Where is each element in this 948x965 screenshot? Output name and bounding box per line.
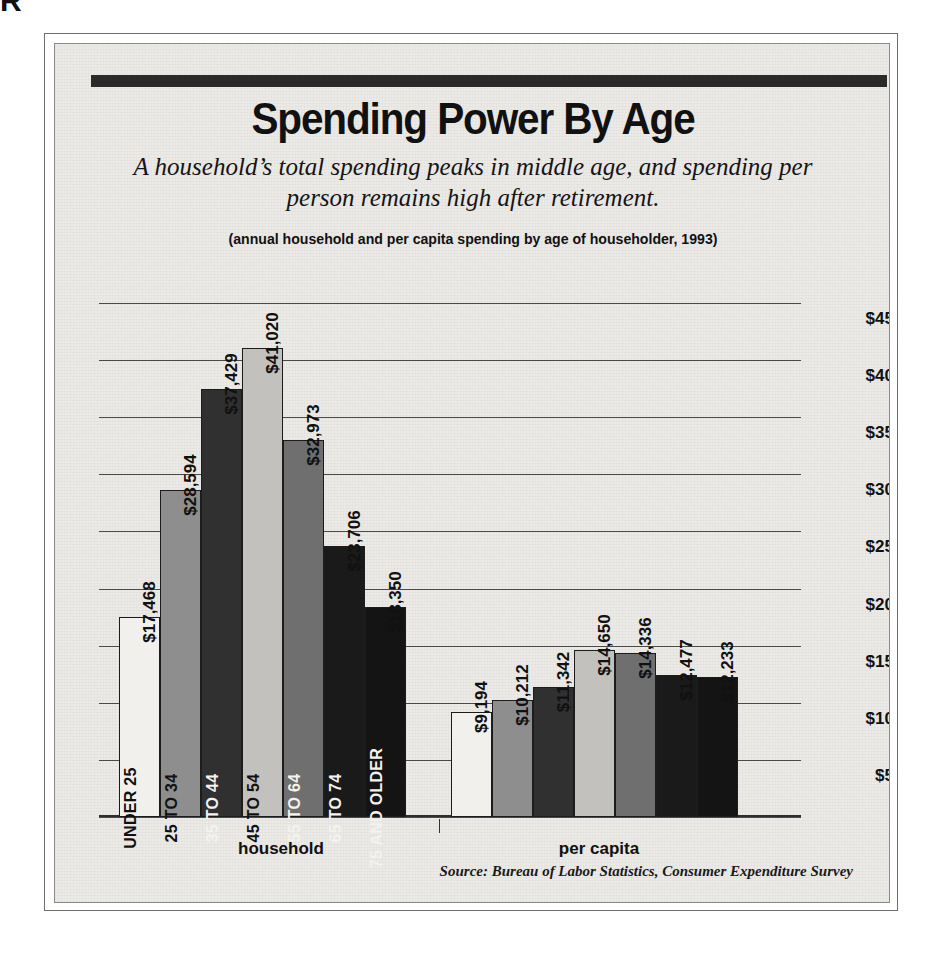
bar-value-label: $11,342	[554, 652, 574, 713]
bar: $41,02045 TO 54	[242, 348, 283, 817]
y-axis-tick-label: $30,000	[811, 480, 890, 500]
bar-value-label: $18,350	[386, 572, 406, 633]
bar-value-label: $14,336	[636, 618, 656, 679]
bar: $14,650	[574, 650, 615, 817]
bar-value-label: $10,212	[513, 665, 533, 726]
y-axis-tick-label: $20,000	[811, 595, 890, 615]
bar-value-label: $23,706	[345, 511, 365, 572]
bar-value-label: $41,020	[263, 313, 283, 374]
y-axis-tick-label: $15,000	[811, 652, 890, 672]
y-axis-tick-label: $35,000	[811, 423, 890, 443]
title-rule	[91, 75, 887, 87]
source-note: Source: Bureau of Labor Statistics, Cons…	[440, 863, 853, 880]
bar: $32,97355 TO 64	[283, 440, 324, 817]
bar: $9,194	[451, 712, 492, 817]
bar-value-label: $37,429	[222, 354, 242, 415]
bar: $14,336	[615, 653, 656, 817]
bar: $37,42935 TO 44	[201, 389, 242, 817]
y-axis-tick-label: $45,000	[811, 309, 890, 329]
chart-note: (annual household and per capita spendin…	[118, 230, 829, 247]
bar: $28,59425 TO 34	[160, 490, 201, 817]
bar-value-label: $28,594	[181, 455, 201, 516]
bar-value-label: $9,194	[472, 681, 492, 733]
gridline	[99, 303, 801, 304]
y-axis-tick-label: $40,000	[811, 366, 890, 386]
group-label-per-capita: per capita	[509, 839, 689, 859]
corner-letter-fragment: R	[0, 0, 21, 16]
bar: $23,70665 TO 74	[324, 546, 365, 817]
bar-value-label: $14,650	[595, 614, 615, 675]
bar-category-label: 45 TO 54	[245, 774, 263, 843]
bar-category-label: UNDER 25	[122, 767, 140, 849]
bar: $18,35075 AND OLDER	[365, 607, 406, 817]
bar: $11,342	[533, 687, 574, 817]
bar-category-label: 35 TO 44	[204, 774, 222, 843]
chart-panel: Spending Power By Age A household’s tota…	[54, 43, 890, 903]
y-axis-tick-label: $0	[811, 823, 890, 843]
bar-value-label: $12,233	[718, 642, 738, 703]
bar-value-label: $17,468	[140, 582, 160, 643]
bar-category-label: 25 TO 34	[163, 774, 181, 843]
page-title: Spending Power By Age	[88, 94, 857, 144]
bar-value-label: $32,973	[304, 405, 324, 466]
bar: $10,212	[492, 700, 533, 817]
y-axis-tick-label: $10,000	[811, 709, 890, 729]
bar: $12,233	[697, 677, 738, 817]
bar-category-label: 55 TO 64	[286, 774, 304, 843]
chart-subtitle: A household’s total spending peaks in mi…	[111, 152, 835, 213]
group-label-household: household	[191, 839, 371, 859]
plot-area: $45,000$40,000$35,000$30,000$25,000$20,0…	[99, 303, 801, 817]
y-axis-tick-label: $25,000	[811, 537, 890, 557]
bar: $12,477	[656, 675, 697, 818]
gridline	[99, 360, 801, 361]
y-axis-tick-label: $5,000	[811, 766, 890, 786]
bar: $17,468UNDER 25	[119, 617, 160, 817]
bar-category-label: 65 TO 74	[327, 774, 345, 843]
group-separator-tick	[439, 819, 440, 833]
bar-value-label: $12,477	[677, 639, 697, 700]
